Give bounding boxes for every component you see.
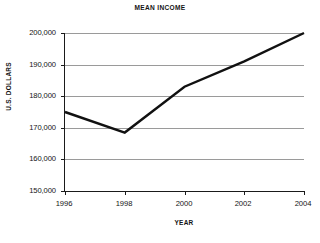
- mean-income-line-chart: MEAN INCOME U.S. DOLLARS 150,000160,0001…: [0, 0, 320, 243]
- x-tick-label: 2000: [165, 199, 203, 208]
- x-axis-title: YEAR: [81, 218, 287, 227]
- x-tick-mark: [65, 191, 66, 195]
- chart-title: MEAN INCOME: [29, 3, 291, 12]
- x-tick-mark: [304, 191, 305, 195]
- y-tick-label: 190,000: [3, 60, 56, 69]
- y-tick-label: 200,000: [3, 28, 56, 37]
- y-tick-label: 180,000: [3, 91, 56, 100]
- x-tick-label: 2002: [224, 199, 262, 208]
- x-tick-label: 1998: [105, 199, 143, 208]
- plot-area: [64, 33, 304, 192]
- x-tick-label: 2004: [284, 199, 320, 208]
- x-tick-label: 1996: [45, 199, 83, 208]
- x-tick-mark: [185, 191, 186, 195]
- x-tick-mark: [125, 191, 126, 195]
- y-tick-label: 150,000: [3, 186, 56, 195]
- y-tick-label: 170,000: [3, 123, 56, 132]
- y-tick-label: 160,000: [3, 154, 56, 163]
- data-series-line: [65, 33, 304, 191]
- x-tick-mark: [244, 191, 245, 195]
